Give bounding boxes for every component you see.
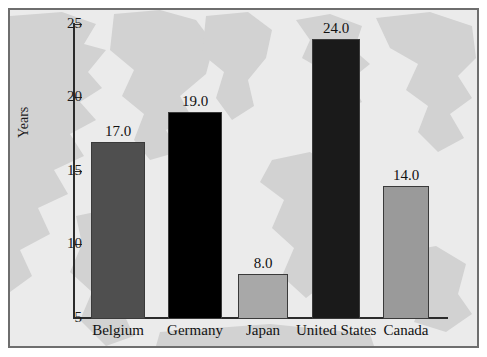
bar-belgium[interactable] — [91, 142, 145, 319]
category-label-japan: Japan — [228, 323, 298, 338]
bar-united-states[interactable] — [312, 39, 360, 319]
y-tick-label: 10 — [40, 236, 82, 251]
y-tick-label: 15 — [40, 163, 82, 178]
bar-value-japan: 8.0 — [238, 256, 288, 271]
category-label-germany: Germany — [158, 323, 232, 338]
bar-value-canada: 14.0 — [379, 168, 433, 183]
bar-japan[interactable] — [238, 274, 288, 319]
bar-value-united-states: 24.0 — [308, 21, 364, 36]
bar-value-germany: 19.0 — [168, 94, 222, 109]
chart-frame: 25 20 15 10 5 Years 17.0 Belgium 19.0 Ge… — [8, 8, 479, 348]
category-label-united-states: United States — [296, 323, 376, 338]
category-label-belgium: Belgium — [81, 323, 155, 338]
bar-germany[interactable] — [168, 112, 222, 319]
y-tick-label: 5 — [40, 310, 82, 325]
category-label-canada: Canada — [374, 323, 438, 338]
y-tick-label: 25 — [40, 16, 82, 31]
y-tick-label: 20 — [40, 89, 82, 104]
bar-value-belgium: 17.0 — [91, 124, 145, 139]
plot-area: 25 20 15 10 5 Years 17.0 Belgium 19.0 Ge… — [10, 10, 477, 346]
bar-canada[interactable] — [383, 186, 429, 319]
y-axis-title: Years — [16, 107, 32, 138]
